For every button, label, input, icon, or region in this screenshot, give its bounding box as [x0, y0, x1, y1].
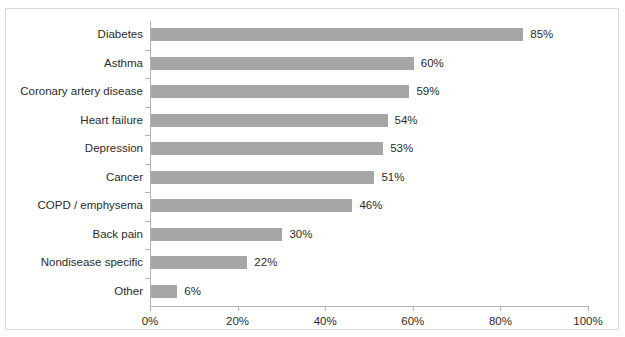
- bar-row: Depression53%: [150, 135, 588, 164]
- bar-value-label: 30%: [289, 225, 312, 244]
- category-label: Diabetes: [98, 25, 143, 44]
- bar-value-label: 22%: [254, 253, 277, 272]
- x-axis-tick: [150, 306, 151, 311]
- bar-value-label: 59%: [416, 82, 439, 101]
- bar-value-label: 60%: [421, 54, 444, 73]
- bar: [151, 57, 414, 70]
- category-label: Coronary artery disease: [20, 82, 143, 101]
- bar-row: COPD / emphysema46%: [150, 192, 588, 221]
- bar: [151, 228, 282, 241]
- category-label: Cancer: [106, 168, 143, 187]
- x-axis-tick: [413, 306, 414, 311]
- category-label: Back pain: [92, 225, 143, 244]
- bar-value-label: 53%: [390, 139, 413, 158]
- bar-value-label: 6%: [184, 282, 201, 301]
- category-label: Depression: [85, 139, 143, 158]
- bar-row: Diabetes85%: [150, 21, 588, 50]
- category-label: Other: [114, 282, 143, 301]
- category-label: Nondisease specific: [41, 253, 143, 272]
- category-label: COPD / emphysema: [38, 196, 143, 215]
- x-axis-tick: [238, 306, 239, 311]
- bar-value-label: 46%: [359, 196, 382, 215]
- bar: [151, 85, 409, 98]
- x-axis-line: [150, 306, 588, 307]
- x-axis-tick-label: 0%: [142, 313, 159, 329]
- x-axis-tick: [500, 306, 501, 311]
- x-axis-tick-label: 40%: [314, 313, 337, 329]
- bar: [151, 171, 374, 184]
- bar-row: Cancer51%: [150, 164, 588, 193]
- bar-value-label: 54%: [395, 111, 418, 130]
- plot-area: Diabetes85%Asthma60%Coronary artery dise…: [150, 21, 588, 306]
- category-label: Asthma: [104, 54, 143, 73]
- bar: [151, 114, 388, 127]
- x-axis-tick-label: 100%: [573, 313, 602, 329]
- x-axis-tick: [588, 306, 589, 311]
- x-axis-tick: [325, 306, 326, 311]
- bar-row: Nondisease specific22%: [150, 249, 588, 278]
- x-axis-tick-label: 20%: [226, 313, 249, 329]
- bar: [151, 199, 352, 212]
- bar: [151, 285, 177, 298]
- bar-row: Back pain30%: [150, 221, 588, 250]
- chart-frame: Diabetes85%Asthma60%Coronary artery dise…: [5, 8, 619, 330]
- bar-row: Heart failure54%: [150, 107, 588, 136]
- bar-row: Asthma60%: [150, 50, 588, 79]
- bar-row: Coronary artery disease59%: [150, 78, 588, 107]
- bar: [151, 142, 383, 155]
- x-axis-tick-label: 60%: [401, 313, 424, 329]
- bar-value-label: 85%: [530, 25, 553, 44]
- bar: [151, 256, 247, 269]
- category-label: Heart failure: [80, 111, 143, 130]
- bar: [151, 28, 523, 41]
- bar-row: Other6%: [150, 278, 588, 307]
- x-axis-tick-label: 80%: [489, 313, 512, 329]
- bar-value-label: 51%: [381, 168, 404, 187]
